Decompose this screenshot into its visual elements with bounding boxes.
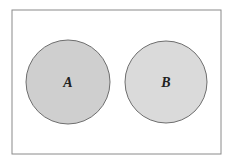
venn-diagram: A B — [0, 0, 237, 166]
set-b-label: B — [160, 75, 170, 90]
set-a-label: A — [62, 75, 72, 90]
